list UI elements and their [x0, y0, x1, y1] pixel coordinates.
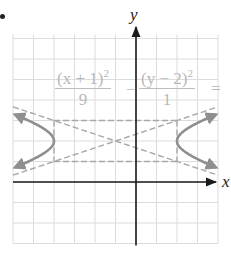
equals-sign: = [211, 80, 221, 97]
term1-exponent: 2 [103, 67, 109, 79]
equation-term-1: (x + 1)2 9 [55, 70, 111, 108]
term2-exponent: 2 [187, 67, 193, 79]
term1-numerator: (x + 1) [57, 69, 103, 88]
term1-denominator: 9 [55, 89, 111, 108]
y-axis-label: y [130, 6, 138, 23]
minus-operator: − [126, 81, 136, 98]
hyperbola-graph [0, 0, 231, 254]
x-axis-label: x [222, 173, 230, 190]
equation-term-2: (y − 2)2 1 [139, 70, 195, 108]
coordinate-axes [13, 27, 216, 246]
term2-denominator: 1 [139, 89, 195, 108]
term2-numerator: (y − 2) [141, 69, 187, 88]
grid-lines [13, 35, 218, 244]
